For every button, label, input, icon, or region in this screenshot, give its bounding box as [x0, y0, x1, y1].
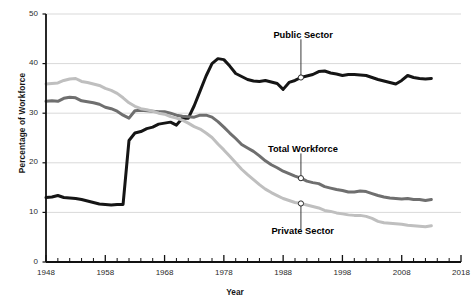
x-axis-title: Year: [0, 287, 470, 297]
x-tick-label: 1968: [145, 268, 185, 277]
x-tick-label: 1998: [322, 268, 362, 277]
series-label-private-sector: Private Sector: [271, 226, 334, 236]
y-tick-label: 10: [12, 207, 38, 216]
x-tick-label: 1978: [204, 268, 244, 277]
y-tick-label: 20: [12, 157, 38, 166]
y-tick-label: 0: [12, 257, 38, 266]
annotation-marker: [298, 201, 303, 206]
annotation-marker: [298, 75, 303, 80]
series-label-public-sector: Public Sector: [273, 30, 332, 40]
plot-series-group: [46, 59, 431, 227]
gridlines: [46, 14, 461, 212]
annotation-leaders: [298, 39, 303, 229]
y-tick-label: 50: [12, 9, 38, 18]
x-tick-label: 2008: [382, 268, 422, 277]
y-tick-label: 40: [12, 58, 38, 67]
y-tick-label: 30: [12, 108, 38, 117]
annotation-marker: [298, 176, 303, 181]
x-tick-label: 1948: [26, 268, 66, 277]
series-line-public-sector: [46, 59, 431, 205]
x-tick-label: 1958: [85, 268, 125, 277]
x-tick-label: 1988: [263, 268, 303, 277]
series-label-total-workforce: Total Workforce: [268, 144, 338, 154]
x-tick-label: 2018: [441, 268, 475, 277]
y-axis-title: Percentage of Workforce: [17, 58, 27, 188]
